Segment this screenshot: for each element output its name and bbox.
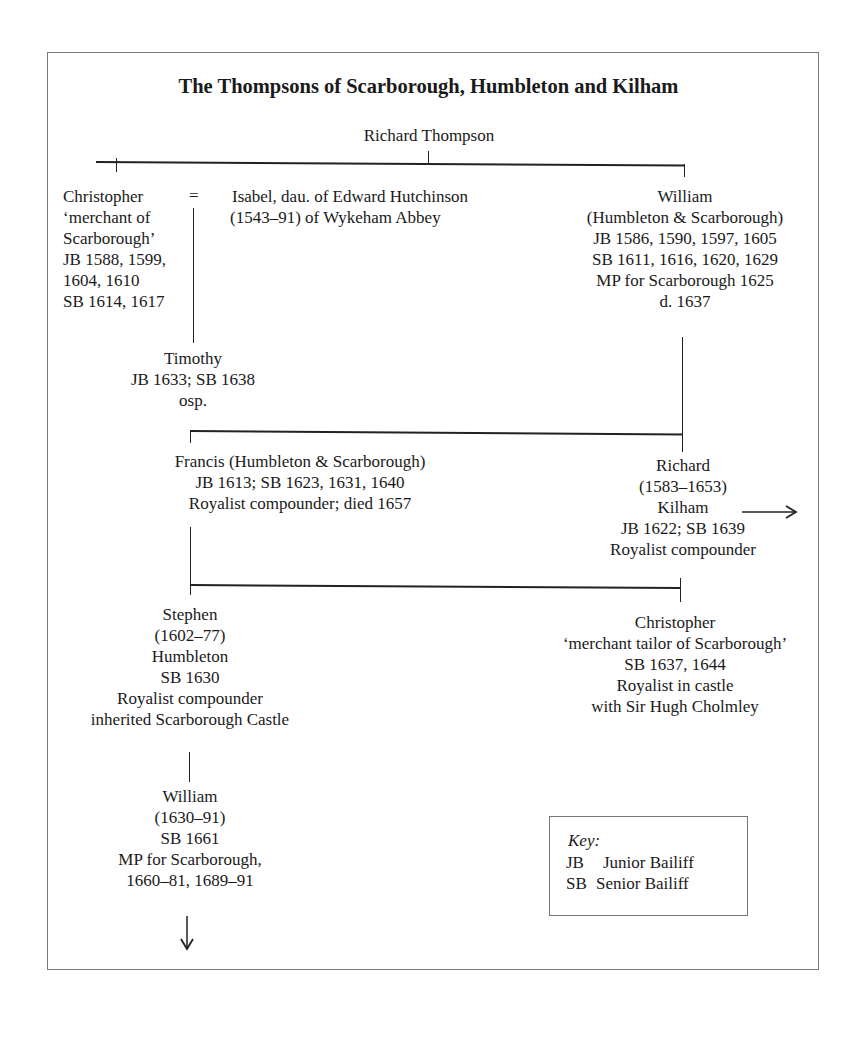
- key-abbr-sb: SB: [566, 874, 587, 895]
- diagram-title: The Thompsons of Scarborough, Humbleton …: [0, 76, 857, 97]
- name: Isabel, dau. of Edward Hutchinson: [232, 187, 468, 208]
- name: Richard: [583, 456, 783, 477]
- note: ‘merchant tailor of Scarborough’: [530, 634, 820, 655]
- note: (Humbleton & Scarborough): [555, 208, 815, 229]
- name: Francis (Humbleton & Scarborough): [130, 452, 470, 473]
- name: William: [555, 187, 815, 208]
- key-heading-text: Key:: [568, 831, 600, 850]
- offices: JB 1588, 1599,: [63, 250, 166, 271]
- arrow-right-icon: [742, 505, 798, 519]
- dates: (1583–1653): [583, 477, 783, 498]
- connector-francis-up: [190, 430, 191, 443]
- note: MP for Scarborough,: [80, 850, 300, 871]
- connector-christopher-younger-up: [680, 578, 681, 602]
- person-richard-thompson: Richard Thompson: [329, 126, 529, 147]
- connector-marriage-down: [193, 208, 194, 343]
- arrow-down-icon: [180, 915, 194, 951]
- note: Royalist compounder; died 1657: [130, 494, 470, 515]
- note: Royalist compounder: [80, 689, 300, 710]
- key-box: Key: JB Junior Bailiff SB Senior Bailiff: [549, 816, 748, 916]
- name: Christopher: [63, 187, 143, 208]
- note: inherited Scarborough Castle: [60, 710, 320, 731]
- offices: MP for Scarborough 1625: [555, 271, 815, 292]
- offices: JB 1613; SB 1623, 1631, 1640: [130, 473, 470, 494]
- connector-william-up: [684, 164, 685, 177]
- note: osp.: [113, 391, 273, 412]
- key-meaning-jb: Junior Bailiff: [603, 853, 694, 874]
- key-meaning-sb: Senior Bailiff: [596, 874, 689, 895]
- offices: SB 1661: [80, 829, 300, 850]
- offices: SB 1637, 1644: [540, 655, 810, 676]
- marriage-symbol: =: [189, 186, 199, 207]
- offices: 1604, 1610: [63, 271, 140, 292]
- connector-christopher-up: [116, 158, 117, 172]
- offices: JB 1586, 1590, 1597, 1605: [555, 229, 815, 250]
- connector-root-down: [428, 151, 429, 163]
- dates: (1630–91): [80, 808, 300, 829]
- connector-stephen-down: [189, 752, 190, 782]
- name: Christopher: [540, 613, 810, 634]
- note: (1543–91) of Wykeham Abbey: [230, 208, 441, 229]
- offices: SB 1614, 1617: [63, 292, 165, 313]
- place: Humbleton: [80, 647, 300, 668]
- offices: SB 1630: [80, 668, 300, 689]
- dates: (1602–77): [80, 626, 300, 647]
- name: William: [80, 787, 300, 808]
- offices: JB 1633; SB 1638: [113, 370, 273, 391]
- offices: SB 1611, 1616, 1620, 1629: [555, 250, 815, 271]
- note: ‘merchant of: [63, 208, 150, 229]
- note: 1660–81, 1689–91: [80, 871, 300, 892]
- key-abbr-jb: JB: [566, 853, 584, 874]
- key-heading: Key:: [568, 831, 600, 852]
- name: Timothy: [113, 349, 273, 370]
- note: Royalist compounder: [583, 540, 783, 561]
- death: d. 1637: [555, 292, 815, 313]
- offices: JB 1622; SB 1639: [583, 519, 783, 540]
- note: with Sir Hugh Cholmley: [540, 697, 810, 718]
- name: Stephen: [80, 605, 300, 626]
- note: Royalist in castle: [540, 676, 810, 697]
- note: Scarborough’: [63, 229, 156, 250]
